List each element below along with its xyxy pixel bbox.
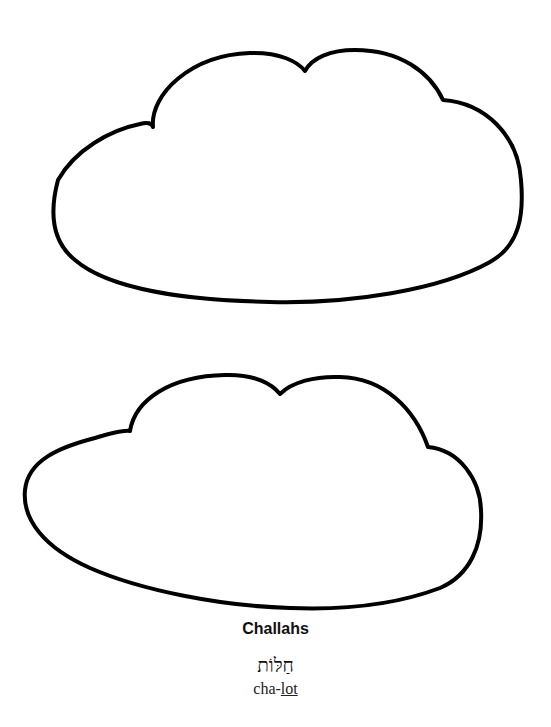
challah-outline-bottom <box>25 375 481 608</box>
caption-transliteration: cha-lot <box>0 680 551 698</box>
challah-outline-top <box>53 50 522 302</box>
coloring-shapes <box>0 0 551 727</box>
transliteration-prefix: cha- <box>253 680 281 697</box>
caption-title: Challahs <box>0 620 551 638</box>
caption-hebrew: חַלּוֹת <box>0 654 551 677</box>
transliteration-stressed: lot <box>281 680 298 697</box>
